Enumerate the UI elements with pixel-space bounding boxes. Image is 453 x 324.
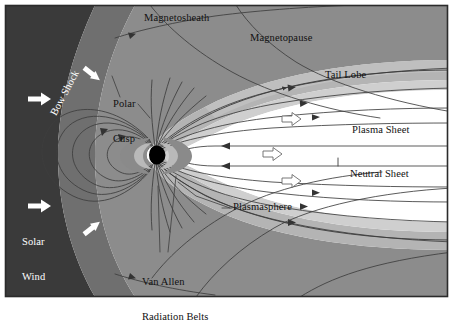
label-plasma-sheet: Plasma Sheet <box>352 124 409 136</box>
label-van-allen-radiation-belts: Van Allen Radiation Belts <box>142 252 209 324</box>
label-solar-wind-line1: Solar <box>22 236 45 248</box>
label-magnetosheath: Magnetosheath <box>144 12 209 24</box>
label-van-allen-line2: Radiation Belts <box>142 311 209 323</box>
label-neutral-sheet: Neutral Sheet <box>350 168 409 180</box>
label-polar-cusp-line1: Polar <box>113 98 136 110</box>
label-polar-cusp-line2: Cusp <box>113 133 136 145</box>
label-solar-wind: Solar Wind <box>22 212 45 306</box>
label-polar-cusp: Polar Cusp <box>113 74 136 168</box>
label-plasmasphere: Plasmasphere <box>233 201 292 213</box>
earth <box>147 146 166 165</box>
label-tail-lobe: Tail Lobe <box>325 69 366 81</box>
label-van-allen-line1: Van Allen <box>142 276 209 288</box>
label-solar-wind-line2: Wind <box>22 271 45 283</box>
label-magnetopause: Magnetopause <box>250 32 312 44</box>
